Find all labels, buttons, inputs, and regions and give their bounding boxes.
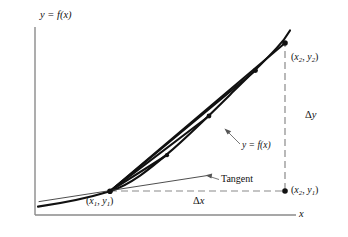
point-label-p1: (x1, y1): [86, 196, 113, 208]
delta-y-label: Δy: [305, 110, 316, 121]
point-marker-p2: [282, 40, 288, 46]
tangent-annotation-label: Tangent: [221, 174, 253, 184]
diagram-canvas: [0, 0, 348, 237]
delta-y-symbol: Δ: [305, 109, 312, 120]
curve-annotation-text: y = f(x): [242, 140, 271, 150]
secant-line-3: [110, 116, 209, 191]
curve-annotation-leader-group: [224, 128, 240, 144]
point-marker-secant3-touch: [207, 114, 212, 119]
p2-paren-close: ): [315, 51, 318, 62]
corner-paren-close: ): [315, 184, 318, 195]
delta-x-variable: x: [200, 195, 205, 206]
y-axis-label-text: y = f(x): [40, 9, 72, 20]
point-marker-p1: [107, 188, 113, 194]
x-axis-label-text: x: [299, 208, 304, 219]
point-label-p2: (x2, y2): [291, 52, 318, 64]
axis-group: [35, 27, 296, 215]
secant-lines-group: [110, 43, 285, 191]
delta-x-label: Δx: [193, 196, 204, 207]
figure-secant-tangent-diagram: y = f(x) x (x2, y2) (x2, y1) (x1, y1) Δy…: [0, 0, 348, 237]
tangent-annotation-leader-group: [206, 174, 219, 180]
point-label-corner: (x2, y1): [291, 185, 318, 197]
x-axis-label: x: [299, 209, 304, 220]
point-marker-corner: [282, 188, 288, 194]
delta-y-variable: y: [312, 109, 317, 120]
tangent-annotation-text: Tangent: [221, 173, 253, 184]
delta-x-symbol: Δ: [193, 195, 200, 206]
y-axis-label: y = f(x): [40, 10, 72, 21]
curve-annotation-label: y = f(x): [242, 141, 271, 151]
point-marker-secant4-touch: [165, 153, 169, 157]
p1-paren-close: ): [110, 195, 113, 206]
point-marker-secant2-touch: [253, 68, 258, 73]
